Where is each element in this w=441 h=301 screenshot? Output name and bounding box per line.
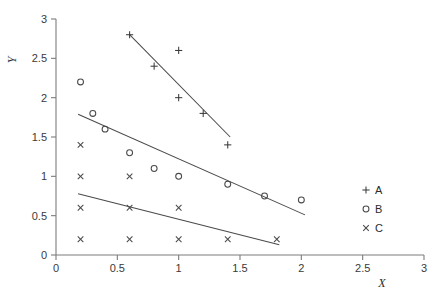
trend-line-c [78,194,279,245]
point-marker-plus [200,110,207,117]
y-tick-label: 1.5 [32,131,47,143]
point-marker-cross [78,174,84,180]
point-marker-cross [78,205,84,211]
point-marker-cross [127,205,133,211]
point-marker-cross [225,236,231,242]
legend-marker-circle [363,206,369,212]
axis-tick-labels: 00.511.522.5300.511.522.53 [32,13,427,274]
legend-label-a: A [375,184,383,196]
point-marker-cross [176,205,182,211]
x-tick-label: 2 [298,262,304,274]
point-marker-circle [225,181,231,187]
x-tick-label: 1 [176,262,182,274]
point-marker-cross [176,236,182,242]
legend-label-b: B [375,203,382,215]
legend-item-c: C [363,222,383,234]
trend-lines [78,35,305,245]
scatter-chart: 00.511.522.5300.511.522.53 ABC XY [0,0,441,301]
data-points [78,31,305,242]
y-tick-label: 3 [41,13,47,25]
point-marker-plus [224,141,231,148]
series-c [78,142,280,242]
point-marker-cross [274,236,280,242]
y-axis-title: Y [5,55,19,63]
point-marker-cross [127,236,133,242]
point-marker-plus [175,47,182,54]
point-marker-circle [90,110,96,116]
x-tick-label: 1.5 [232,262,247,274]
x-axis-title: X [377,276,386,290]
point-marker-cross [127,174,133,180]
y-tick-label: 1 [41,170,47,182]
point-marker-plus [175,94,182,101]
y-tick-label: 0 [41,249,47,261]
point-marker-cross [78,142,84,148]
point-marker-circle [176,173,182,179]
x-tick-label: 3 [421,262,427,274]
point-marker-circle [102,126,108,132]
plot-area: 00.511.522.5300.511.522.53 ABC XY [0,0,441,301]
y-tick-label: 0.5 [32,210,47,222]
point-marker-circle [78,79,84,85]
legend: ABC [362,184,383,234]
x-tick-label: 0.5 [110,262,125,274]
series-a [126,31,231,148]
x-tick-label: 2.5 [355,262,370,274]
point-marker-plus [151,63,158,70]
point-marker-circle [151,166,157,172]
legend-item-b: B [363,203,382,215]
legend-item-a: A [362,184,383,196]
axis-ticks [51,19,424,260]
y-tick-label: 2 [41,92,47,104]
legend-marker-plus [362,186,369,193]
point-marker-cross [78,236,84,242]
y-tick-label: 2.5 [32,52,47,64]
axes [56,19,424,255]
trend-line-b [78,114,305,215]
legend-label-c: C [375,222,383,234]
x-tick-label: 0 [53,262,59,274]
point-marker-circle [127,150,133,156]
legend-marker-cross [363,225,369,231]
point-marker-circle [298,197,304,203]
